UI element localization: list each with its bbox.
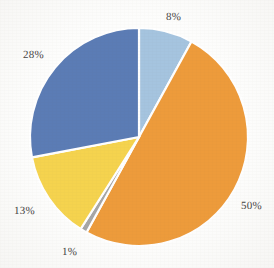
pie-slice[interactable] xyxy=(30,28,139,157)
pie-chart: 8%50%1%13%28% xyxy=(0,0,274,268)
pie-slice-label: 1% xyxy=(62,247,77,258)
pie-slices-group xyxy=(30,28,248,246)
pie-slice-label: 13% xyxy=(14,206,35,217)
pie-chart-canvas xyxy=(0,0,274,268)
pie-slice-label: 8% xyxy=(166,12,181,23)
pie-slice-label: 50% xyxy=(241,201,262,212)
pie-slice-label: 28% xyxy=(23,50,44,61)
